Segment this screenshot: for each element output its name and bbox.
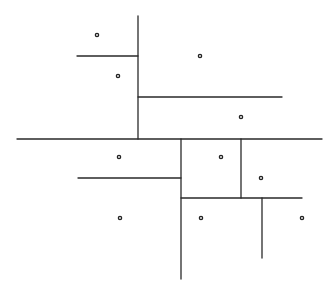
kd-tree-diagram — [0, 0, 336, 299]
data-point-7 — [259, 176, 262, 179]
data-point-10 — [300, 216, 303, 219]
data-point-5 — [117, 155, 120, 158]
data-point-6 — [219, 155, 222, 158]
data-point-2 — [116, 74, 119, 77]
data-point-4 — [239, 115, 242, 118]
data-point-3 — [198, 54, 201, 57]
partition-lines — [17, 16, 322, 279]
data-point-8 — [118, 216, 121, 219]
partition-svg — [0, 0, 336, 299]
data-point-1 — [95, 33, 98, 36]
data-points — [95, 33, 303, 219]
data-point-9 — [199, 216, 202, 219]
